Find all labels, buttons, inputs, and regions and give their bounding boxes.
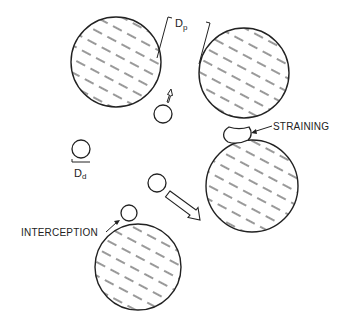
straining-particle [224, 127, 252, 143]
particle-moving-up [154, 105, 172, 123]
grain-bottom-left [90, 220, 190, 320]
arrow-down-right-icon [166, 191, 201, 220]
grain-top-left [60, 10, 180, 120]
grain-diameter-label: Dp [175, 17, 188, 32]
interception-label: INTERCEPTION [21, 227, 98, 238]
interception-pointer: INTERCEPTION [21, 220, 120, 238]
particle-reference: Dd [72, 140, 90, 181]
particle-moving-down-right [148, 174, 166, 192]
arrow-up-icon [167, 89, 173, 103]
straining-label: STRAINING [273, 121, 329, 132]
straining-pointer: STRAINING [251, 121, 329, 134]
particle-diameter-label: Dd [74, 167, 86, 181]
particle-intercepted [121, 205, 137, 221]
grain-right-middle [200, 130, 310, 240]
filtration-diagram: Dp Dd STRAINING INTERCEPTION [0, 0, 351, 333]
